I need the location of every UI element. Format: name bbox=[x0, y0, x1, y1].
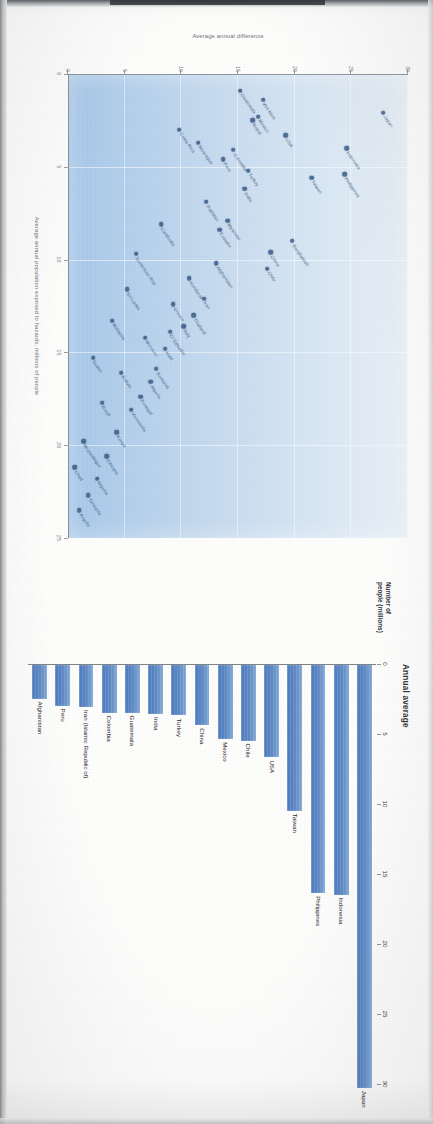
bar-fill bbox=[195, 665, 210, 725]
bar-axis-tickmark bbox=[377, 874, 381, 875]
page-edge-right bbox=[428, 0, 433, 1124]
bar-category-label: Colombia bbox=[106, 716, 113, 742]
scatter-gridline-h bbox=[294, 74, 295, 538]
bar-axis-name-line1: Number of bbox=[384, 582, 392, 656]
bar-fill bbox=[311, 665, 326, 893]
scatter-y-tick: 25 bbox=[348, 48, 354, 72]
bar-category-label: Japan bbox=[361, 1091, 368, 1108]
bar-category-label: Guatemala bbox=[129, 716, 136, 746]
bar-fill bbox=[102, 665, 117, 713]
scatter-x-tickmark bbox=[64, 74, 68, 75]
bar-fill bbox=[287, 665, 302, 811]
bar-axis-tick: 15 bbox=[382, 871, 389, 878]
scatter-gridline-v bbox=[68, 445, 408, 446]
bar-fill bbox=[32, 665, 47, 699]
bar-category-label: Peru bbox=[59, 709, 66, 722]
scatter-y-tickmark bbox=[67, 70, 68, 74]
bar-fill bbox=[125, 665, 140, 713]
page-edge-bottom bbox=[0, 1118, 433, 1124]
bar-fill bbox=[264, 665, 279, 757]
bar-item[interactable]: Iran (Islamic Republic of) bbox=[79, 664, 94, 1084]
scatter-x-tick: 0 bbox=[56, 72, 62, 75]
scatter-x-axis bbox=[68, 74, 69, 538]
scatter-y-tick: 15 bbox=[235, 48, 241, 72]
scatter-x-tick: 10 bbox=[56, 256, 62, 263]
bar-axis-name-line2: people (millions) bbox=[376, 582, 384, 656]
scatter-gridline-h bbox=[407, 74, 408, 538]
scatter-gridline-h bbox=[124, 74, 125, 538]
bar-category-label: Iran (Islamic Republic of) bbox=[83, 710, 90, 778]
bar-axis-tick: 25 bbox=[382, 1011, 389, 1018]
scatter-y-tickmark bbox=[180, 70, 181, 74]
bar-axis-tickmark bbox=[377, 944, 381, 945]
bar-axis-tickmark bbox=[377, 1084, 381, 1085]
scatter-gridline-v bbox=[68, 260, 408, 261]
bar-chart-title: Annual average bbox=[401, 664, 410, 728]
scatter-y-tickmark bbox=[124, 70, 125, 74]
scatter-gridline-v bbox=[68, 352, 408, 353]
bar-chart-axis-name: Number of people (millions) bbox=[376, 582, 392, 656]
page-edge-left bbox=[0, 0, 7, 1124]
scatter-y-tickmark bbox=[294, 70, 295, 74]
scatter-chart: Average annual population exposed to haz… bbox=[16, 14, 414, 554]
bar-axis-tickmark bbox=[377, 664, 381, 665]
scatter-y-tick: 20 bbox=[292, 48, 298, 72]
bar-fill bbox=[79, 665, 94, 707]
bar-chart: Annual average Number of people (million… bbox=[18, 578, 410, 1098]
scatter-y-tickmark bbox=[407, 70, 408, 74]
bar-item[interactable]: USA bbox=[264, 664, 279, 1084]
scatter-x-tick: 20 bbox=[56, 442, 62, 449]
scatter-x-tickmark bbox=[64, 538, 68, 539]
scatter-y-tick: 5 bbox=[122, 48, 128, 72]
scatter-gridline-h bbox=[237, 74, 238, 538]
page-edge-shadow bbox=[110, 0, 325, 5]
bar-item[interactable]: Turkey bbox=[171, 664, 186, 1084]
bar-axis-tickmark bbox=[377, 804, 381, 805]
bar-item[interactable]: Peru bbox=[55, 664, 70, 1084]
bar-category-label: Chile bbox=[245, 744, 252, 758]
bar-axis-tickmark bbox=[377, 1014, 381, 1015]
scanned-page: Average annual population exposed to haz… bbox=[0, 0, 433, 1124]
bar-item[interactable]: Mexico bbox=[218, 664, 233, 1084]
scatter-x-tickmark bbox=[64, 167, 68, 168]
scatter-x-axis-label: Average annual population exposed to haz… bbox=[34, 74, 40, 538]
bar-item[interactable]: Taiwan bbox=[287, 664, 302, 1084]
scatter-y-tickmark bbox=[350, 70, 351, 74]
bar-fill bbox=[171, 665, 186, 715]
bar-fill bbox=[357, 665, 372, 1088]
scatter-y-axis-label: Average annual difference bbox=[128, 33, 328, 39]
scatter-x-tickmark bbox=[64, 352, 68, 353]
scatter-gridline-v bbox=[68, 538, 408, 539]
scatter-x-tick: 15 bbox=[56, 349, 62, 356]
bar-fill bbox=[218, 665, 233, 739]
bar-axis-tickmark bbox=[377, 734, 381, 735]
scatter-plot-area bbox=[68, 74, 408, 538]
bar-item[interactable]: Indonesia bbox=[334, 664, 349, 1084]
bar-item[interactable]: Philippines bbox=[311, 664, 326, 1084]
bar-axis-tick: 20 bbox=[382, 941, 389, 948]
scatter-y-tick: 10 bbox=[178, 48, 184, 72]
bar-category-label: USA bbox=[268, 760, 275, 773]
bar-item[interactable]: Japan bbox=[357, 664, 372, 1084]
bar-item[interactable]: Colombia bbox=[102, 664, 117, 1084]
bar-item[interactable]: Afghanistan bbox=[32, 664, 47, 1084]
scatter-y-axis bbox=[68, 74, 408, 75]
bar-item[interactable]: Chile bbox=[241, 664, 256, 1084]
scatter-y-tick: 0 bbox=[65, 48, 71, 72]
bar-fill bbox=[55, 665, 70, 706]
bar-category-label: Afghanistan bbox=[36, 702, 43, 735]
bar-axis-tick: 0 bbox=[382, 662, 389, 665]
scatter-y-tick: 30 bbox=[405, 48, 411, 72]
bar-fill bbox=[334, 665, 349, 895]
scatter-y-tickmark bbox=[237, 70, 238, 74]
bar-axis-tick: 30 bbox=[382, 1081, 389, 1088]
bar-item[interactable]: China bbox=[195, 664, 210, 1084]
bar-item[interactable]: India bbox=[148, 664, 163, 1084]
bar-axis-tick: 10 bbox=[382, 801, 389, 808]
bar-fill bbox=[148, 665, 163, 714]
bar-item[interactable]: Guatemala bbox=[125, 664, 140, 1084]
bar-category-label: Philippines bbox=[315, 896, 322, 926]
bar-fill bbox=[241, 665, 256, 741]
scatter-x-tickmark bbox=[64, 445, 68, 446]
scatter-gridline-h bbox=[350, 74, 351, 538]
